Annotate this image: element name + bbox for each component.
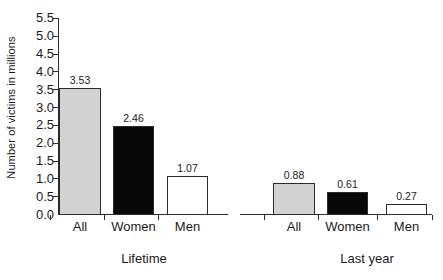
y-tick-label: 0.0 [18, 208, 54, 221]
y-tick-label: 3.0 [18, 101, 54, 114]
y-tick-label: 5.5 [18, 11, 54, 24]
y-tick-label: 1.0 [18, 172, 54, 185]
bar-last-year-all [273, 183, 315, 215]
bar-last-year-men [386, 204, 427, 215]
y-tick-label: 1.5 [18, 154, 54, 167]
x-group-label: Lifetime [84, 252, 204, 265]
bar-lifetime-all [59, 88, 101, 215]
y-axis-tick-labels: 0.00.51.01.52.02.53.03.54.04.55.05.5 [16, 0, 54, 280]
x-category-label: Women [315, 220, 380, 233]
y-tick-label: 4.5 [18, 47, 54, 60]
bar-value-label: 0.61 [327, 179, 368, 190]
bar-lifetime-men [167, 176, 208, 215]
y-tick-label: 5.0 [18, 29, 54, 42]
bar-value-label: 0.88 [273, 170, 315, 181]
y-tick-label: 3.5 [18, 83, 54, 96]
bar-value-label: 2.46 [113, 113, 154, 124]
x-category-label: Men [374, 220, 439, 233]
y-tick-label: 4.0 [18, 65, 54, 78]
x-category-label: Men [155, 220, 220, 233]
bar-value-label: 3.53 [59, 75, 101, 86]
bar-value-label: 0.27 [386, 191, 427, 202]
bar-last-year-women [327, 192, 368, 215]
y-tick-label: 0.5 [18, 190, 54, 203]
bar-value-label: 1.07 [167, 163, 208, 174]
x-group-label: Last year [307, 252, 427, 265]
y-tick-label: 2.5 [18, 118, 54, 131]
bar-chart: Number of victims in millions 0.00.51.01… [0, 0, 443, 280]
bar-lifetime-women [113, 126, 154, 215]
y-tick-label: 2.0 [18, 136, 54, 149]
